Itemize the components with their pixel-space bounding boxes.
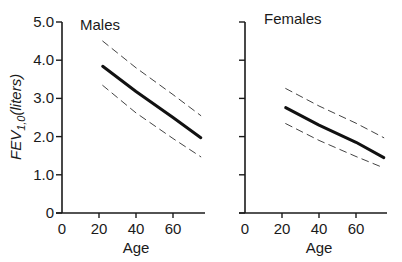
y-tick-label: 3.0 [33, 89, 54, 106]
x-tick-label: 0 [241, 220, 249, 237]
panel-title: Females [264, 10, 322, 27]
x-axis-title: Age [306, 239, 333, 256]
dashed-limit-line [286, 89, 384, 138]
x-tick-label: 20 [91, 220, 108, 237]
x-tick-label: 20 [274, 220, 291, 237]
y-tick-label: 1.0 [33, 166, 54, 183]
y-tick-label: 4.0 [33, 51, 54, 68]
x-tick-label: 0 [58, 220, 66, 237]
dashed-limit-line [103, 85, 201, 156]
y-tick-label: 2.0 [33, 128, 54, 145]
panel-title: Males [80, 16, 120, 33]
x-tick-label: 60 [165, 220, 182, 237]
y-tick-label: 0 [46, 204, 54, 221]
x-axis-title: Age [123, 239, 150, 256]
mean-line [103, 66, 201, 137]
dashed-limit-line [286, 124, 384, 168]
x-tick-label: 60 [348, 220, 365, 237]
x-tick-label: 40 [311, 220, 328, 237]
y-axis-title: FEV1,0(liters) [7, 74, 27, 160]
y-tick-label: 5.0 [33, 13, 54, 30]
females-panel: 0204060AgeFemales [239, 10, 387, 256]
mean-line [286, 108, 384, 158]
x-tick-label: 40 [128, 220, 145, 237]
males-panel: 01.02.03.04.05.00204060AgeMales [33, 13, 205, 256]
figure: FEV1,0(liters) 01.02.03.04.05.00204060Ag… [0, 0, 402, 262]
